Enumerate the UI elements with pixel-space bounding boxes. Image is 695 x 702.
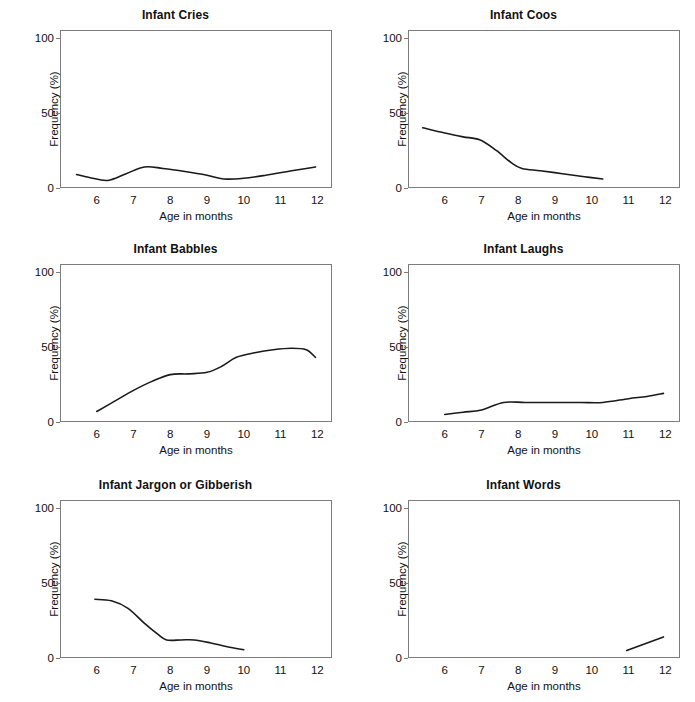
y-tick-label: 50 (389, 341, 402, 353)
x-tick-label: 12 (659, 194, 672, 206)
x-tick-label: 6 (442, 428, 448, 440)
y-tick-label: 0 (48, 182, 54, 194)
x-axis-label: Age in months (408, 680, 680, 692)
x-tick-label: 11 (623, 194, 635, 206)
y-tick-mark (404, 658, 408, 659)
data-series-line (445, 393, 664, 414)
x-tick-label: 10 (585, 664, 598, 676)
y-tick-mark (404, 188, 408, 189)
y-tick-label: 50 (41, 577, 54, 589)
series-canvas (408, 30, 680, 188)
y-tick-label: 50 (41, 107, 54, 119)
data-series-line (77, 167, 316, 181)
x-tick-label: 6 (94, 664, 100, 676)
panel-title: Infant Coos (350, 8, 695, 22)
y-tick-label: 0 (48, 416, 54, 428)
x-tick-label: 6 (94, 428, 100, 440)
series-canvas (408, 500, 680, 658)
x-tick-label: 12 (311, 428, 324, 440)
chart-panel: Infant LaughsFrequency (%)05010067891011… (350, 234, 695, 468)
series-canvas (60, 264, 332, 422)
chart-panel: Infant CriesFrequency (%)050100678910111… (2, 0, 349, 234)
x-tick-label: 10 (585, 428, 598, 440)
x-tick-label: 9 (552, 664, 558, 676)
y-tick-label: 0 (48, 652, 54, 664)
y-tick-label: 0 (396, 182, 402, 194)
data-series-line (627, 637, 664, 651)
x-tick-label: 11 (275, 194, 287, 206)
x-tick-label: 10 (585, 194, 598, 206)
x-tick-label: 10 (237, 194, 250, 206)
x-tick-label: 7 (130, 664, 136, 676)
x-tick-label: 12 (311, 664, 324, 676)
x-tick-label: 8 (515, 428, 521, 440)
x-axis-label: Age in months (60, 680, 332, 692)
x-axis-label: Age in months (60, 210, 332, 222)
x-tick-label: 11 (623, 664, 635, 676)
y-tick-label: 100 (383, 32, 402, 44)
panel-title: Infant Babbles (2, 242, 349, 256)
chart-panel: Infant Jargon or GibberishFrequency (%)0… (2, 470, 349, 702)
y-tick-label: 0 (396, 416, 402, 428)
figure-panel-grid: Infant CriesFrequency (%)050100678910111… (0, 0, 695, 702)
y-tick-label: 50 (389, 107, 402, 119)
x-tick-label: 9 (552, 428, 558, 440)
data-series-line (423, 128, 603, 179)
x-tick-label: 12 (659, 428, 672, 440)
x-tick-label: 8 (167, 664, 173, 676)
panel-title: Infant Words (350, 478, 695, 492)
y-tick-label: 100 (383, 266, 402, 278)
chart-panel: Infant BabblesFrequency (%)0501006789101… (2, 234, 349, 468)
x-tick-label: 8 (167, 194, 173, 206)
x-tick-label: 9 (204, 194, 210, 206)
x-axis-label: Age in months (408, 210, 680, 222)
panel-title: Infant Jargon or Gibberish (2, 478, 349, 492)
data-series-line (97, 348, 316, 411)
plot-area: Frequency (%)0501006789101112Age in mont… (408, 264, 680, 422)
y-tick-label: 50 (41, 341, 54, 353)
y-tick-label: 100 (383, 502, 402, 514)
x-tick-label: 6 (94, 194, 100, 206)
x-tick-label: 12 (311, 194, 324, 206)
x-tick-label: 7 (478, 194, 484, 206)
x-tick-label: 7 (130, 194, 136, 206)
x-tick-label: 6 (442, 664, 448, 676)
x-tick-label: 10 (237, 428, 250, 440)
panel-title: Infant Cries (2, 8, 349, 22)
x-tick-label: 12 (659, 664, 672, 676)
x-tick-label: 11 (275, 664, 287, 676)
x-tick-label: 7 (130, 428, 136, 440)
series-canvas (60, 500, 332, 658)
x-tick-label: 7 (478, 664, 484, 676)
x-tick-label: 9 (552, 194, 558, 206)
y-tick-label: 0 (396, 652, 402, 664)
x-tick-label: 8 (167, 428, 173, 440)
plot-area: Frequency (%)0501006789101112Age in mont… (60, 264, 332, 422)
x-tick-label: 10 (237, 664, 250, 676)
y-tick-mark (56, 422, 60, 423)
x-tick-label: 9 (204, 664, 210, 676)
data-series-line (95, 599, 244, 649)
x-axis-label: Age in months (408, 444, 680, 456)
x-tick-label: 8 (515, 194, 521, 206)
chart-panel: Infant WordsFrequency (%)050100678910111… (350, 470, 695, 702)
plot-area: Frequency (%)0501006789101112Age in mont… (60, 30, 332, 188)
x-tick-label: 8 (515, 664, 521, 676)
chart-panel: Infant CoosFrequency (%)0501006789101112… (350, 0, 695, 234)
y-tick-label: 100 (35, 502, 54, 514)
y-tick-mark (56, 658, 60, 659)
y-tick-mark (404, 422, 408, 423)
x-tick-label: 9 (204, 428, 210, 440)
series-canvas (60, 30, 332, 188)
plot-area: Frequency (%)0501006789101112Age in mont… (408, 30, 680, 188)
x-axis-label: Age in months (60, 444, 332, 456)
y-tick-label: 50 (389, 577, 402, 589)
plot-area: Frequency (%)0501006789101112Age in mont… (60, 500, 332, 658)
y-tick-label: 100 (35, 32, 54, 44)
plot-area: Frequency (%)0501006789101112Age in mont… (408, 500, 680, 658)
y-tick-label: 100 (35, 266, 54, 278)
series-canvas (408, 264, 680, 422)
x-tick-label: 11 (275, 428, 287, 440)
x-tick-label: 11 (623, 428, 635, 440)
x-tick-label: 6 (442, 194, 448, 206)
